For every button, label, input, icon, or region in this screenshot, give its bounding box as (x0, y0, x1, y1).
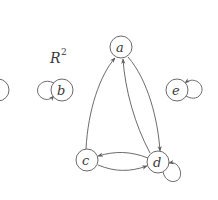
node-e: e (166, 79, 188, 101)
edge-d-to-a (123, 59, 150, 153)
edge-c-to-a (86, 58, 115, 149)
node-e-label: e (172, 83, 180, 98)
node-a-label: a (116, 40, 124, 55)
title-superscript: 2 (61, 47, 67, 57)
edge-d-to-c (98, 152, 148, 158)
title-base: R (49, 50, 61, 66)
relation-graph: R 2 a b c d e (0, 0, 218, 200)
graph-title: R 2 (49, 47, 67, 66)
node-c-label: c (82, 153, 90, 168)
node-a: a (110, 36, 132, 58)
node-b: b (51, 79, 73, 101)
node-d: d (147, 151, 169, 173)
node-partial (0, 79, 9, 101)
node-c: c (76, 149, 98, 171)
node-d-label: d (153, 155, 161, 170)
edge-c-to-d (98, 165, 147, 170)
node-b-label: b (57, 83, 65, 98)
edge-a-to-d (128, 57, 160, 151)
